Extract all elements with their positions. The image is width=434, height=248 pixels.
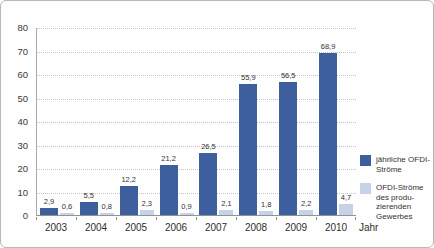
x-tick [36, 217, 37, 220]
legend-swatch [360, 155, 371, 166]
bar-jaehrliche-ofdi [40, 208, 58, 215]
legend: jährliche OFDI-StrömeOFDI-Strömedes prod… [360, 155, 432, 230]
bar-slot: 55,9 [239, 74, 257, 215]
y-tick-label: 50 [1, 94, 28, 104]
plot-area: 2,90,65,50,812,22,321,20,926,52,155,91,8… [36, 28, 356, 216]
x-tick-label: 2005 [116, 222, 156, 234]
x-axis-ticks [36, 216, 356, 220]
bar-group: 21,20,9 [157, 28, 197, 215]
y-tick-label: 40 [1, 117, 28, 127]
bar-slot: 21,2 [160, 155, 178, 215]
x-tick [355, 217, 356, 220]
x-tick-label: 2010 [316, 222, 356, 234]
bar-value-label: 1,8 [261, 201, 271, 209]
bar-value-label: 68,9 [321, 43, 336, 51]
bar-group: 2,90,6 [37, 28, 77, 215]
bar-group: 56,52,2 [276, 28, 316, 215]
bar-slot: 1,8 [259, 201, 273, 215]
bar-slot: 12,2 [120, 176, 138, 215]
bar-ofdi-gewerbe [180, 213, 194, 215]
bar-slot: 2,9 [40, 198, 58, 215]
bar-value-label: 2,2 [301, 200, 311, 208]
bar-value-label: 0,8 [102, 203, 112, 211]
bar-jaehrliche-ofdi [160, 165, 178, 215]
legend-label: jährliche OFDI-Ströme [376, 155, 430, 174]
bar-slot: 2,3 [140, 200, 154, 215]
x-tick [316, 217, 317, 220]
bar-value-label: 2,9 [44, 198, 54, 206]
bar-ofdi-gewerbe [100, 213, 114, 215]
bar-group: 5,50,8 [77, 28, 117, 215]
bar-slot: 0,8 [100, 203, 114, 215]
legend-label-line: Ströme [376, 165, 430, 175]
legend-label-line: jährliche OFDI- [376, 155, 430, 165]
bar-ofdi-gewerbe [339, 204, 353, 215]
legend-label-line: des produ- [376, 193, 424, 203]
x-tick [196, 217, 197, 220]
bar-value-label: 21,2 [161, 155, 176, 163]
bar-slot: 26,5 [199, 143, 217, 215]
x-tick-label: 2007 [196, 222, 236, 234]
legend-label: OFDI-Strömedes produ-zierendenGewerbes [376, 183, 424, 221]
x-tick [116, 217, 117, 220]
y-tick-label: 80 [1, 23, 28, 33]
y-tick-label: 30 [1, 141, 28, 151]
y-tick-label: 10 [1, 188, 28, 198]
y-tick-label: 60 [1, 70, 28, 80]
bar-value-label: 12,2 [121, 176, 136, 184]
bar-value-label: 4,7 [341, 194, 351, 202]
y-tick-label: 70 [1, 47, 28, 57]
bar-group: 26,52,1 [197, 28, 237, 215]
bar-value-label: 2,3 [141, 200, 151, 208]
legend-item: OFDI-Strömedes produ-zierendenGewerbes [360, 183, 432, 221]
bar-slot: 0,6 [60, 203, 74, 215]
bar-jaehrliche-ofdi [120, 186, 138, 215]
bar-ofdi-gewerbe [60, 213, 74, 215]
bar-groups: 2,90,65,50,812,22,321,20,926,52,155,91,8… [37, 28, 356, 215]
bar-value-label: 2,1 [221, 200, 231, 208]
bar-group: 12,22,3 [117, 28, 157, 215]
y-tick-label: 0 [1, 211, 28, 221]
bar-slot: 4,7 [339, 194, 353, 215]
bar-slot: 2,2 [299, 200, 313, 215]
bar-value-label: 55,9 [241, 74, 256, 82]
x-tick [156, 217, 157, 220]
bar-jaehrliche-ofdi [319, 53, 337, 215]
x-tick-label: 2009 [276, 222, 316, 234]
bar-jaehrliche-ofdi [80, 202, 98, 215]
x-tick [236, 217, 237, 220]
x-tick-label: 2004 [76, 222, 116, 234]
y-axis-labels: 01020304050607080 [1, 28, 31, 216]
x-axis-labels: 20032004200520062007200820092010 [36, 222, 356, 234]
bar-jaehrliche-ofdi [239, 84, 257, 215]
bar-slot: 68,9 [319, 43, 337, 215]
x-tick [276, 217, 277, 220]
bar-ofdi-gewerbe [140, 210, 154, 215]
legend-swatch [360, 183, 371, 194]
bar-value-label: 0,9 [181, 203, 191, 211]
bar-slot: 5,5 [80, 192, 98, 215]
bar-value-label: 0,6 [62, 203, 72, 211]
x-tick-label: 2008 [236, 222, 276, 234]
bar-group: 55,91,8 [236, 28, 276, 215]
bar-value-label: 56,5 [281, 72, 296, 80]
bar-ofdi-gewerbe [299, 210, 313, 215]
legend-label-line: Gewerbes [376, 212, 424, 222]
bar-slot: 2,1 [219, 200, 233, 215]
bar-jaehrliche-ofdi [199, 153, 217, 215]
ofdi-bar-chart-figure: 01020304050607080 2,90,65,50,812,22,321,… [0, 0, 434, 248]
bar-value-label: 5,5 [84, 192, 94, 200]
y-tick-label: 20 [1, 164, 28, 174]
bar-ofdi-gewerbe [219, 210, 233, 215]
bar-group: 68,94,7 [316, 28, 356, 215]
bar-ofdi-gewerbe [259, 211, 273, 215]
legend-label-line: OFDI-Ströme [376, 183, 424, 193]
x-tick [76, 217, 77, 220]
x-tick-label: 2003 [36, 222, 76, 234]
bar-slot: 0,9 [180, 203, 194, 215]
legend-label-line: zierenden [376, 202, 424, 212]
x-tick-label: 2006 [156, 222, 196, 234]
bar-jaehrliche-ofdi [279, 82, 297, 215]
bar-value-label: 26,5 [201, 143, 216, 151]
bar-slot: 56,5 [279, 72, 297, 215]
